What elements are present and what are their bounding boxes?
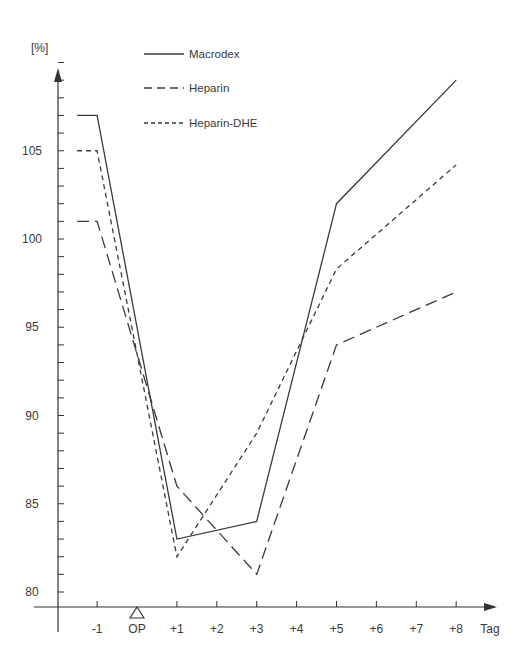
x-tick-label: +8 (449, 622, 463, 636)
x-tick-label: +7 (409, 622, 423, 636)
y-axis-unit-label: [%] (31, 41, 48, 55)
x-tick-label: +1 (170, 622, 184, 636)
series-line-heparin (77, 221, 456, 574)
x-tick-label: OP (128, 622, 145, 636)
series-line-macrodex (77, 80, 456, 539)
x-axis-arrow-icon (484, 603, 497, 611)
y-tick-label: 80 (25, 585, 39, 599)
y-tick-label: 100 (22, 232, 42, 246)
x-axis-unit-label: Tag (480, 622, 499, 636)
x-tick-label: +6 (370, 622, 384, 636)
x-tick-label: +4 (290, 622, 304, 636)
x-tick-label: +2 (210, 622, 224, 636)
x-tick-label: +5 (330, 622, 344, 636)
series-line-heparin-dhe (77, 151, 456, 557)
y-tick-label: 95 (25, 320, 39, 334)
y-tick-label: 90 (25, 409, 39, 423)
series-lines (77, 80, 456, 574)
y-tick-label: 105 (22, 144, 42, 158)
x-tick-label: +3 (250, 622, 264, 636)
op-triangle-icon (130, 607, 144, 618)
legend-label: Heparin (189, 82, 229, 94)
line-chart: [%]80859095100105-1OP+1+2+3+4+5+6+7+8Tag… (0, 0, 516, 648)
x-tick-label: -1 (92, 622, 103, 636)
legend-label: Heparin-DHE (189, 117, 258, 129)
legend: MacrodexHeparinHeparin-DHE (144, 48, 258, 129)
legend-label: Macrodex (189, 48, 240, 60)
y-tick-label: 85 (25, 497, 39, 511)
axes: [%]80859095100105-1OP+1+2+3+4+5+6+7+8Tag (22, 41, 500, 636)
